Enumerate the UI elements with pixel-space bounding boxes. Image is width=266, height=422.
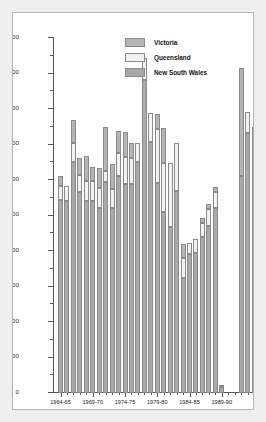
x-tick-label: 1989-90 <box>211 399 232 405</box>
legend-item-new-south-wales: New South Wales <box>125 65 237 80</box>
x-tick-minor <box>164 393 165 395</box>
bar-segment-queensland <box>71 143 76 163</box>
bar <box>135 143 140 393</box>
bar-segment-new-south-wales <box>142 80 147 393</box>
bar <box>123 132 128 393</box>
bar-segment-victoria <box>123 132 128 157</box>
x-tick-minor <box>228 393 229 395</box>
bar-segment-queensland <box>58 186 63 200</box>
bar-segment-new-south-wales <box>77 192 82 393</box>
bar <box>239 68 244 393</box>
bar <box>90 167 95 393</box>
bar <box>116 131 121 393</box>
x-tick-minor <box>177 393 178 395</box>
x-tick <box>222 393 223 397</box>
bar-segment-new-south-wales <box>213 208 218 393</box>
bar-segment-new-south-wales <box>110 208 115 393</box>
bar-segment-new-south-wales <box>84 201 89 393</box>
bar-segment-queensland <box>84 181 89 202</box>
y-tick-label: 600 <box>12 176 19 183</box>
bar-segment-new-south-wales <box>245 133 250 393</box>
bar-segment-queensland <box>193 239 198 253</box>
y-tick-label: 300 <box>12 282 19 289</box>
bar-segment-new-south-wales <box>116 176 121 393</box>
plot-area <box>53 37 253 393</box>
bar <box>148 113 153 393</box>
bar <box>103 127 108 393</box>
bar-segment-queensland <box>187 243 192 254</box>
y-tick-label: 0 <box>12 389 19 396</box>
x-tick-minor <box>119 393 120 395</box>
bar-segment-new-south-wales <box>135 162 140 393</box>
legend-item-victoria: Victoria <box>125 35 237 50</box>
y-tick-label: 500 <box>12 211 19 218</box>
bar <box>155 114 160 393</box>
bar-segment-victoria <box>239 68 244 176</box>
x-tick-minor <box>202 393 203 395</box>
bar-segment-new-south-wales <box>155 183 160 394</box>
bar-segment-queensland <box>116 153 121 176</box>
x-tick-minor <box>131 393 132 395</box>
bar-segment-victoria <box>129 143 134 158</box>
bar-segment-queensland <box>77 175 82 193</box>
bar <box>84 156 89 393</box>
bar-segment-new-south-wales <box>148 142 153 393</box>
x-tick <box>190 393 191 397</box>
bar <box>71 120 76 393</box>
bar <box>187 243 192 393</box>
legend-label-new-south-wales: New South Wales <box>154 69 207 76</box>
bar-segment-new-south-wales <box>252 142 255 393</box>
bar-segment-new-south-wales <box>200 237 205 393</box>
bar-segment-queensland <box>245 112 250 133</box>
legend-swatch-queensland <box>125 53 145 62</box>
x-tick-minor <box>138 393 139 395</box>
bar <box>213 187 218 393</box>
y-tick-label: 200 <box>12 318 19 325</box>
bar <box>168 163 173 393</box>
bar-segment-victoria <box>155 114 160 129</box>
bar-segment-queensland <box>181 258 186 278</box>
bar-segment-queensland <box>110 189 115 209</box>
x-tick-minor <box>209 393 210 395</box>
x-tick-minor <box>144 393 145 395</box>
bar-segment-new-south-wales <box>71 162 76 393</box>
bar <box>58 176 63 393</box>
bar-segment-queensland <box>252 127 255 142</box>
bar <box>245 112 250 394</box>
x-tick-minor <box>99 393 100 395</box>
bar-segment-new-south-wales <box>181 278 186 393</box>
x-tick-minor <box>248 393 249 395</box>
x-tick-minor <box>241 393 242 395</box>
bar <box>97 168 102 393</box>
bar-segment-new-south-wales <box>168 227 173 393</box>
bar-segment-new-south-wales <box>90 201 95 393</box>
bar-segment-queensland <box>129 158 134 184</box>
bar-segment-queensland <box>168 163 173 227</box>
bar <box>161 128 166 393</box>
x-tick-minor <box>106 393 107 395</box>
bar-segment-new-south-wales <box>174 191 179 393</box>
bar-segment-victoria <box>213 187 218 191</box>
x-tick-label: 1969-70 <box>82 399 103 405</box>
x-tick-minor <box>215 393 216 395</box>
x-tick-minor <box>67 393 68 395</box>
y-tick-label: 400 <box>12 247 19 254</box>
bar-segment-queensland <box>213 192 218 209</box>
bar-segment-new-south-wales <box>193 253 198 393</box>
bar-segment-new-south-wales <box>219 387 224 393</box>
x-tick-minor <box>112 393 113 395</box>
y-tick-label: 1000 <box>12 34 19 41</box>
x-tick-label: 1984-85 <box>179 399 200 405</box>
bar <box>129 143 134 393</box>
y-tick-label: 900 <box>12 69 19 76</box>
x-tick-minor <box>196 393 197 395</box>
y-tick-label: 800 <box>12 105 19 112</box>
bar-segment-victoria <box>116 131 121 153</box>
bar-segment-queensland <box>206 209 211 226</box>
x-tick-minor <box>183 393 184 395</box>
bar-segment-queensland <box>219 385 224 387</box>
bar-segment-new-south-wales <box>103 182 108 393</box>
bar-segment-victoria <box>77 158 82 175</box>
bar-segment-victoria <box>90 167 95 180</box>
bar-segment-victoria <box>71 120 76 143</box>
